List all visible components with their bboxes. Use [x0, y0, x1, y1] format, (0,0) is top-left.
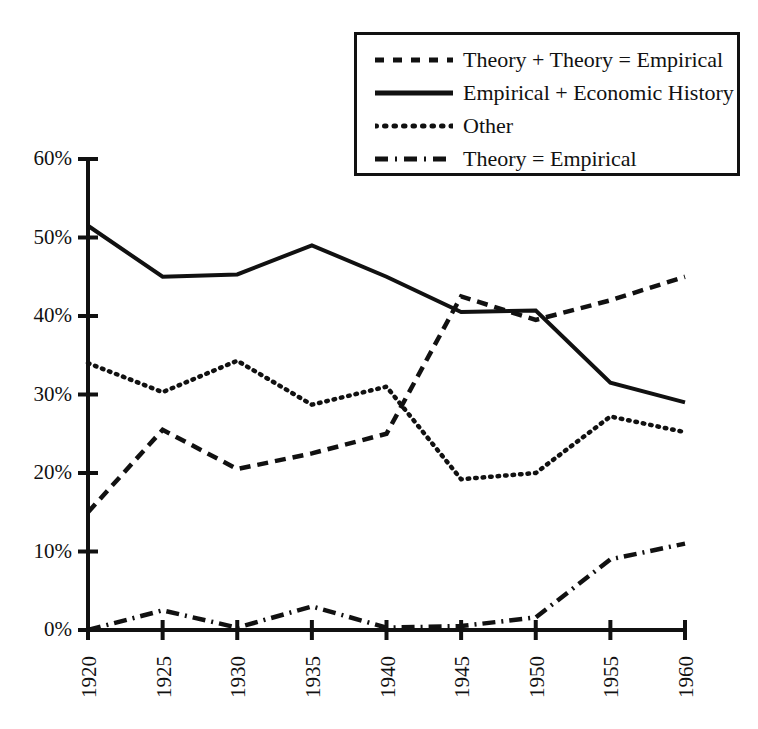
x-axis-tick-label: 1945 [452, 656, 473, 698]
chart-figure: 0%10%20%30%40%50%60% 1920192519301935194… [0, 0, 758, 729]
legend-item: Theory + Theory = Empirical [375, 45, 723, 75]
x-axis-tick-label: 1935 [303, 656, 324, 698]
y-axis-tick-label: 60% [34, 148, 73, 169]
y-axis-tick-label: 50% [34, 227, 73, 248]
legend-item: Empirical + Economic History [375, 78, 734, 108]
y-axis-tick-label: 0% [44, 619, 72, 640]
y-axis-tick-label: 10% [34, 541, 73, 562]
legend-item-label: Other [463, 115, 513, 137]
legend-line-swatch [375, 83, 453, 103]
y-axis-tick-label: 20% [34, 462, 73, 483]
chart-series-line [88, 277, 685, 513]
x-axis-tick-label: 1960 [676, 656, 697, 698]
chart-series-line [88, 226, 685, 403]
chart-axes [78, 158, 685, 640]
chart-legend: Theory + Theory = EmpiricalEmpirical + E… [354, 32, 740, 176]
legend-item-label: Empirical + Economic History [463, 82, 734, 104]
legend-item-label: Theory = Empirical [463, 148, 637, 170]
x-axis-tick-label: 1930 [228, 656, 249, 698]
chart-series-line [88, 361, 685, 480]
legend-line-swatch [375, 116, 453, 136]
legend-line-swatch [375, 149, 453, 169]
x-axis-tick-label: 1920 [79, 656, 100, 698]
legend-item: Other [375, 111, 513, 141]
legend-item: Theory = Empirical [375, 144, 637, 174]
x-axis-tick-label: 1955 [601, 656, 622, 698]
x-axis-tick-label: 1925 [154, 656, 175, 698]
x-axis-tick-label: 1940 [378, 656, 399, 698]
legend-line-swatch [375, 50, 453, 70]
y-axis-tick-label: 40% [34, 305, 73, 326]
y-axis-tick-label: 30% [34, 384, 73, 405]
legend-item-label: Theory + Theory = Empirical [463, 49, 723, 71]
x-axis-tick-label: 1950 [527, 656, 548, 698]
chart-series-line [88, 544, 685, 630]
